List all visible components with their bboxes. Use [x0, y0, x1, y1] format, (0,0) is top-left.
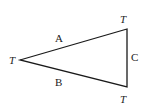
vertex-label-top-right: T	[120, 13, 127, 25]
vertex-label-left: T	[9, 54, 16, 66]
edge-label-a: A	[55, 32, 63, 44]
edge-label-b: B	[55, 76, 62, 88]
triangle-shape	[20, 29, 127, 87]
edge-label-c: C	[131, 51, 138, 63]
vertex-label-bottom-right: T	[120, 93, 127, 105]
triangle-diagram: T T T A B C	[0, 0, 150, 106]
